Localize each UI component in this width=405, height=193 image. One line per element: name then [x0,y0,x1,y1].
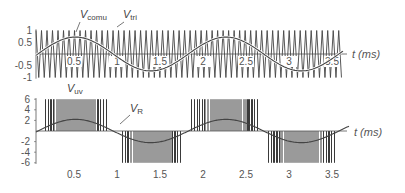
v-uv-pulse [130,131,131,163]
v-uv-pulse [172,131,173,163]
v-uv-pulse [151,131,152,163]
v-uv-pulse [299,131,300,163]
v-uv-pulse [133,131,134,163]
v-uv-pulse [84,99,85,131]
v-uv-pulse [171,131,172,163]
v-uv-pulse [80,99,81,131]
v-uv-pulse [313,131,314,163]
v-uv-pulse [98,99,99,131]
v-uv-pulse [61,99,62,131]
v-uv-pulse [276,131,277,163]
v-uv-pulse [131,131,132,163]
v-uv-pulse [174,131,175,163]
v-uv-pulse [280,131,281,163]
v-uv-pulse [157,131,158,163]
v-uv-pulse [302,131,303,163]
v-uv-pulse [236,99,237,131]
v-uv-pulse [305,131,306,163]
v-uv-pulse [251,99,252,131]
v-uv-pulse [326,131,327,163]
v-uv-pulse [221,99,222,131]
v-uv-pulse [140,131,141,163]
v-uv-pulse [287,131,288,163]
v-uv-pulse [281,131,282,163]
bottom-x-tick-label: 3.5 [325,169,339,180]
v-uv-pulse [312,131,313,163]
v-uv-pulse [207,99,208,131]
bottom-panel-vuv-vr: 642-2-4-60.511.522.533.5 [21,94,349,180]
v-uv-pulse [289,131,290,163]
v-uv-pulse [156,131,157,163]
v-uv-pulse [128,131,129,163]
v-uv-pulse [282,131,283,163]
v-uv-pulse [100,99,101,131]
bottom-y-tick-label: 6 [24,94,30,105]
v-uv-pulse [137,131,138,163]
v-uv-pulse [243,99,244,131]
pwm-waveform-figure: 10.5-0.5-10.511.522.533.5 642-2-4-60.511… [0,0,405,193]
v-uv-pulse [74,99,75,131]
v-uv-pulse [95,99,96,131]
v-uv-pulse [212,99,213,131]
v-uv-pulse [147,131,148,163]
v-uv-pulse [136,131,137,163]
v-uv-pulse [237,99,238,131]
v-uv-pulse [300,131,301,163]
v-uv-pulse [205,99,206,131]
v-uv-pulse [294,131,295,163]
v-uv-pulse [309,131,310,163]
v-uv-pulse [286,131,287,163]
v-uv-pulse [213,99,214,131]
v-uv-pulse [224,99,225,131]
bottom-y-tick-label: 2 [24,115,30,126]
v-uv-pulse [208,99,209,131]
v-uv-pulse [297,131,298,163]
v-uv-pulse [83,99,84,131]
v-uv-pulse [79,99,80,131]
v-uv-pulse [76,99,77,131]
v-uv-pulse [323,131,324,163]
v-uv-pulse [288,131,289,163]
v-uv-pulse [75,99,76,131]
v-uv-pulse [211,99,212,131]
v-uv-pulse [248,99,249,131]
v-uv-pulse [241,99,242,131]
v-uv-pulse [167,131,168,163]
v-uv-pulse [89,99,90,131]
v-uv-pulse [53,99,54,131]
v-uv-pulse [293,131,294,163]
v-uv-pulse [317,131,318,163]
v-uv-pulse [226,99,227,131]
v-uv-pulse [152,131,153,163]
v-uv-pulse [298,131,299,163]
v-uv-pulse [69,99,70,131]
v-uv-pulse [314,131,315,163]
v-uv-pulse [318,131,319,163]
v-uv-pulse [168,131,169,163]
v-uv-pulse [71,99,72,131]
v-uv-pulse [235,99,236,131]
v-uv-pulse [150,131,151,163]
bottom-y-tick-label: -6 [21,157,30,168]
v-uv-pulse [67,99,68,131]
v-uv-pulse [127,131,128,163]
v-uv-pulse [81,99,82,131]
v-uv-pulse [68,99,69,131]
v-uv-pulse [93,99,94,131]
v-uv-pulse [279,131,280,163]
v-comu-leader [76,22,80,32]
v-uv-pulse [65,99,66,131]
v-uv-pulse [87,99,88,131]
v-uv-pulse [134,131,135,163]
v-uv-pulse [57,99,58,131]
v-uv-pulse [219,99,220,131]
bottom-x-tick-label: 2 [200,169,206,180]
v-uv-pulse [66,99,67,131]
v-uv-pulse [331,131,332,163]
top-x-tick-label: 2.5 [239,56,253,67]
top-y-tick-label: 1 [26,25,32,36]
v-uv-pulse [91,99,92,131]
v-uv-pulse [308,131,309,163]
v-uv-pulse [225,99,226,131]
top-y-tick-label: 0.5 [18,37,32,48]
